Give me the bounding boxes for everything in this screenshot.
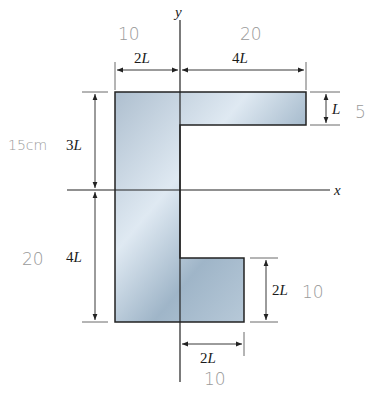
cross-section-diagram: y x 2L 4L L 3L 4L 2L 2L 10 20 5 15cm 20 … xyxy=(0,0,381,394)
note-bottom-width: 10 xyxy=(204,369,226,389)
x-axis-label: x xyxy=(333,182,341,198)
note-bottom-height: 10 xyxy=(302,282,324,302)
note-top-right: 20 xyxy=(240,24,262,44)
note-top-left: 10 xyxy=(118,24,140,44)
svg-text:2L: 2L xyxy=(134,50,150,66)
y-axis-label: y xyxy=(173,4,182,20)
note-flange: 5 xyxy=(355,102,366,122)
svg-text:4L: 4L xyxy=(232,50,248,66)
svg-text:3L: 3L xyxy=(66,137,82,153)
note-lower-height: 20 xyxy=(22,249,44,269)
svg-text:L: L xyxy=(331,101,340,117)
svg-text:2L: 2L xyxy=(200,350,216,366)
svg-text:4L: 4L xyxy=(66,249,82,265)
note-upper-height: 15cm xyxy=(8,137,47,153)
svg-text:2L: 2L xyxy=(272,282,288,298)
